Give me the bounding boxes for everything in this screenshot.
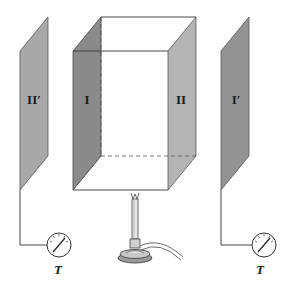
panel-I-label: I <box>84 92 89 108</box>
thermometer-label-left: T <box>54 262 62 278</box>
diagram-canvas <box>0 0 287 282</box>
thermometer-label-right: T <box>256 262 264 278</box>
panel-II-label: II <box>176 92 186 108</box>
thermometer-gauge-left <box>47 233 71 257</box>
thermometer-wire-right <box>221 190 252 245</box>
panel-I-prime-label: I′ <box>232 92 241 108</box>
bunsen-burner <box>118 193 183 263</box>
panel-II-prime-label: II′ <box>27 92 41 108</box>
thermometer-gauge-right <box>252 233 276 257</box>
thermometer-wire-left <box>20 190 47 245</box>
